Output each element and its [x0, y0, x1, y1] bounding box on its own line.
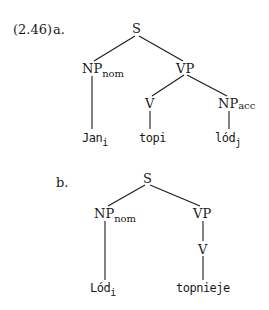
node-np-nom-b: NPnom — [94, 207, 136, 221]
np-head: NP — [218, 96, 238, 111]
node-s-b: S — [143, 172, 152, 185]
leaf-word: topnieje — [176, 281, 230, 295]
node-v-a: V — [145, 97, 154, 110]
node-np-nom-a: NPnom — [82, 62, 124, 76]
edge-s-vp-a — [139, 36, 183, 61]
np-head: NP — [94, 206, 114, 221]
case-subscript: nom — [114, 213, 136, 224]
tree-edges — [0, 0, 269, 310]
edge-s-npnom-b — [108, 185, 145, 206]
leaf-topi: topi — [139, 132, 166, 144]
coindex-subscript: j — [235, 137, 241, 148]
example-a-label: a. — [53, 23, 65, 36]
coindex-subscript: i — [102, 137, 108, 148]
coindex-subscript: i — [110, 287, 116, 298]
leaf-lod-b: Lódi — [90, 282, 116, 295]
leaf-word: topi — [139, 131, 166, 145]
leaf-word: Lód — [90, 281, 110, 295]
node-vp-b: VP — [193, 207, 211, 220]
example-number: (2.46) — [13, 23, 52, 36]
leaf-topnieje: topnieje — [176, 282, 230, 294]
np-head: NP — [82, 61, 102, 76]
node-v-b: V — [198, 243, 207, 256]
edge-s-vp-b — [150, 185, 200, 206]
edge-s-npnom-a — [94, 36, 135, 61]
node-s-a: S — [132, 22, 141, 35]
node-vp-a: VP — [176, 62, 194, 75]
node-np-acc-a: NPacc — [218, 97, 255, 111]
leaf-lod: lódj — [215, 132, 241, 145]
case-subscript: nom — [102, 68, 124, 79]
edge-vp-v-a — [152, 75, 184, 96]
example-b-label: b. — [56, 176, 68, 189]
case-subscript: acc — [238, 100, 255, 111]
leaf-word: lód — [215, 131, 235, 145]
leaf-jan: Jani — [82, 132, 108, 145]
leaf-word: Jan — [82, 131, 102, 145]
edge-vp-npacc-a — [187, 75, 227, 96]
